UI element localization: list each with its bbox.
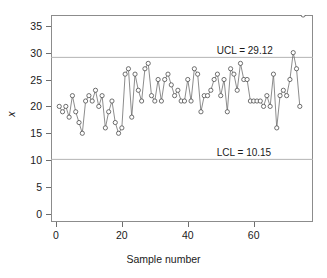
data-point: [143, 67, 147, 71]
data-point: [149, 94, 153, 98]
series-line: [59, 53, 300, 134]
data-point: [192, 67, 196, 71]
data-point: [182, 99, 186, 103]
data-point: [57, 104, 61, 108]
y-tick-mark: [46, 106, 51, 107]
y-tick-label: 10: [2, 155, 42, 165]
y-tick-mark: [46, 160, 51, 161]
data-point: [196, 72, 200, 76]
data-point: [133, 72, 137, 76]
data-point: [113, 120, 117, 124]
data-point: [268, 104, 272, 108]
data-point: [70, 94, 74, 98]
y-tick-mark: [46, 187, 51, 188]
data-point: [153, 99, 157, 103]
data-point: [100, 94, 104, 98]
data-point: [60, 110, 64, 114]
data-point: [294, 67, 298, 71]
data-point: [186, 77, 190, 81]
data-point: [258, 99, 262, 103]
data-point: [97, 104, 101, 108]
data-point: [103, 126, 107, 130]
x-tick-label: 60: [239, 230, 269, 241]
data-point: [156, 77, 160, 81]
data-point: [215, 72, 219, 76]
data-point: [110, 99, 114, 103]
data-point: [120, 126, 124, 130]
data-point: [123, 72, 127, 76]
y-tick-mark: [46, 133, 51, 134]
data-point: [261, 104, 265, 108]
data-point: [163, 77, 167, 81]
data-point: [199, 110, 203, 114]
y-tick-mark: [46, 214, 51, 215]
data-point: [80, 131, 84, 135]
control-chart: 05101520253035 0204060 Sample number x U…: [0, 0, 327, 278]
y-tick-mark: [46, 80, 51, 81]
data-point: [229, 67, 233, 71]
data-point: [301, 15, 305, 17]
data-point: [126, 67, 130, 71]
x-tick-mark: [188, 222, 189, 227]
data-point: [232, 72, 236, 76]
data-point: [209, 88, 213, 92]
data-point: [205, 94, 209, 98]
data-point: [285, 94, 289, 98]
data-point: [275, 126, 279, 130]
data-point: [265, 94, 269, 98]
data-point: [84, 99, 88, 103]
data-point: [90, 99, 94, 103]
y-tick-label: 5: [2, 182, 42, 192]
lcl-label: LCL = 10.15: [216, 148, 272, 158]
data-point: [169, 83, 173, 87]
data-point: [189, 99, 193, 103]
x-tick-mark: [56, 222, 57, 227]
x-tick-label: 20: [107, 230, 137, 241]
data-point: [107, 110, 111, 114]
x-tick-label: 0: [41, 230, 71, 241]
data-point: [172, 94, 176, 98]
data-point: [235, 88, 239, 92]
data-point: [278, 94, 282, 98]
data-point: [281, 88, 285, 92]
series-points: [57, 15, 305, 135]
data-point: [245, 77, 249, 81]
y-tick-label: 0: [2, 209, 42, 219]
data-point: [212, 77, 216, 81]
data-point: [136, 88, 140, 92]
y-tick-label: 15: [2, 128, 42, 138]
x-tick-mark: [254, 222, 255, 227]
y-tick-label: 30: [2, 48, 42, 58]
data-point: [288, 77, 292, 81]
y-tick-label: 25: [2, 75, 42, 85]
x-tick-label: 40: [173, 230, 203, 241]
data-point: [225, 110, 229, 114]
data-point: [271, 72, 275, 76]
y-tick-mark: [46, 26, 51, 27]
x-tick-mark: [122, 222, 123, 227]
data-point: [159, 99, 163, 103]
y-tick-mark: [46, 53, 51, 54]
data-point: [140, 99, 144, 103]
data-point: [74, 110, 78, 114]
data-point: [222, 77, 226, 81]
y-tick-label: 35: [2, 21, 42, 31]
data-point: [64, 104, 68, 108]
ucl-label: UCL = 29.12: [216, 46, 274, 56]
data-point: [116, 131, 120, 135]
data-point: [87, 94, 91, 98]
data-point: [130, 115, 134, 119]
data-point: [93, 88, 97, 92]
data-point: [291, 51, 295, 55]
y-axis-title: x: [5, 105, 17, 123]
data-point: [77, 120, 81, 124]
x-axis-title: Sample number: [0, 253, 327, 265]
data-point: [146, 61, 150, 65]
data-point: [166, 72, 170, 76]
data-point: [238, 61, 242, 65]
data-point: [298, 104, 302, 108]
data-point: [219, 94, 223, 98]
data-point: [176, 88, 180, 92]
data-point: [67, 115, 71, 119]
